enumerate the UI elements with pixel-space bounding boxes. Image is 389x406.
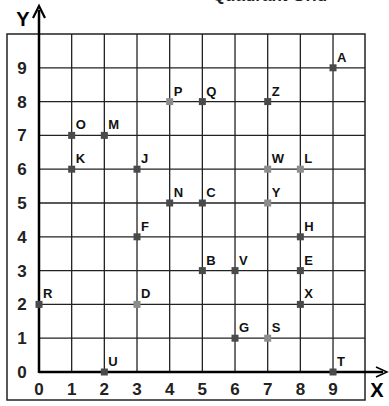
point-label: C bbox=[206, 185, 216, 200]
x-tick-label: 1 bbox=[67, 380, 76, 399]
x-tick-label: 5 bbox=[198, 380, 207, 399]
point-marker-icon bbox=[166, 200, 173, 207]
point-label: S bbox=[272, 320, 281, 335]
point-label: F bbox=[141, 219, 149, 234]
coordinate-grid-chart: YX 01234567890123456789 APQZOMKJWLNCYFHB… bbox=[0, 0, 389, 406]
x-axis-label: X bbox=[370, 379, 384, 401]
point-marker-icon bbox=[297, 233, 304, 240]
y-tick-label: 7 bbox=[17, 126, 26, 145]
y-axis-label: Y bbox=[16, 8, 30, 30]
point-marker-icon bbox=[101, 132, 108, 139]
point-marker-icon bbox=[166, 98, 173, 105]
point-marker-icon bbox=[232, 267, 239, 274]
point-label: B bbox=[206, 253, 215, 268]
point-label: D bbox=[141, 286, 150, 301]
y-tick-label: 4 bbox=[17, 228, 27, 247]
point-label: Q bbox=[206, 84, 216, 99]
point-marker-icon bbox=[264, 200, 271, 207]
x-tick-label: 6 bbox=[230, 380, 239, 399]
x-tick-label: 0 bbox=[34, 380, 43, 399]
point-label: M bbox=[108, 117, 119, 132]
x-tick-label: 8 bbox=[296, 380, 305, 399]
point-marker-icon bbox=[297, 301, 304, 308]
point-marker-icon bbox=[68, 132, 75, 139]
x-tick-label: 7 bbox=[263, 380, 272, 399]
y-tick-label: 1 bbox=[17, 329, 26, 348]
point-label: J bbox=[141, 151, 148, 166]
point-marker-icon bbox=[134, 166, 141, 173]
point-marker-icon bbox=[199, 267, 206, 274]
y-tick-label: 9 bbox=[17, 59, 26, 78]
point-label: L bbox=[304, 151, 312, 166]
point-marker-icon bbox=[134, 233, 141, 240]
point-label: X bbox=[304, 286, 313, 301]
point-marker-icon bbox=[264, 98, 271, 105]
point-marker-icon bbox=[330, 369, 337, 376]
y-tick-label: 3 bbox=[17, 262, 26, 281]
chart-frame bbox=[7, 34, 365, 400]
point-marker-icon bbox=[232, 335, 239, 342]
point-label: N bbox=[174, 185, 183, 200]
point-label: T bbox=[337, 354, 345, 369]
point-marker-icon bbox=[330, 64, 337, 71]
point-label: Z bbox=[272, 84, 280, 99]
point-label: E bbox=[304, 253, 313, 268]
y-tick-label: 0 bbox=[17, 363, 26, 382]
point-label: Y bbox=[272, 185, 281, 200]
tick-labels: 01234567890123456789 bbox=[17, 59, 337, 399]
point-marker-icon bbox=[264, 166, 271, 173]
point-marker-icon bbox=[264, 335, 271, 342]
point-marker-icon bbox=[68, 166, 75, 173]
y-tick-label: 8 bbox=[17, 93, 26, 112]
point-label: R bbox=[43, 286, 53, 301]
point-label: U bbox=[108, 354, 117, 369]
point-marker-icon bbox=[199, 98, 206, 105]
point-marker-icon bbox=[297, 166, 304, 173]
point-marker-icon bbox=[297, 267, 304, 274]
point-label: W bbox=[272, 151, 285, 166]
point-marker-icon bbox=[134, 301, 141, 308]
y-tick-label: 2 bbox=[17, 295, 26, 314]
point-label: O bbox=[76, 117, 86, 132]
point-label: H bbox=[304, 219, 313, 234]
point-label: P bbox=[174, 84, 183, 99]
y-tick-label: 6 bbox=[17, 160, 26, 179]
point-label: V bbox=[239, 253, 248, 268]
x-tick-label: 9 bbox=[328, 380, 337, 399]
point-marker-icon bbox=[36, 301, 43, 308]
x-tick-label: 3 bbox=[132, 380, 141, 399]
x-tick-label: 4 bbox=[165, 380, 175, 399]
point-label: A bbox=[337, 50, 347, 65]
y-tick-label: 5 bbox=[17, 194, 26, 213]
point-marker-icon bbox=[101, 369, 108, 376]
point-marker-icon bbox=[199, 200, 206, 207]
point-label: K bbox=[76, 151, 86, 166]
x-tick-label: 2 bbox=[100, 380, 109, 399]
point-label: G bbox=[239, 320, 249, 335]
